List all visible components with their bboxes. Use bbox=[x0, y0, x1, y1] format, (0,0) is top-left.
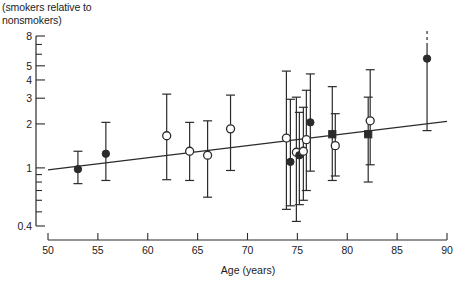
data-point-open-circle bbox=[299, 147, 307, 155]
data-point-filled-circle bbox=[102, 150, 109, 157]
y-tick-label: 2 bbox=[26, 118, 32, 130]
chart-canvas: 0.4123458 505560657075808590 Age (years) bbox=[0, 0, 456, 289]
data-point-filled-circle bbox=[307, 119, 314, 126]
data-point-filled-circle bbox=[74, 165, 81, 172]
x-tick-label: 70 bbox=[242, 244, 254, 256]
data-point-filled-circle bbox=[287, 158, 294, 165]
x-tick-label: 60 bbox=[142, 244, 154, 256]
x-tick-label: 75 bbox=[292, 244, 304, 256]
y-tick-label: 4 bbox=[26, 74, 32, 86]
data-point-open-circle bbox=[331, 142, 339, 150]
y-tick-label: 3 bbox=[26, 92, 32, 104]
x-tick-label: 50 bbox=[42, 244, 54, 256]
x-tick-label: 55 bbox=[92, 244, 104, 256]
y-axis-ticks-group: 0.4123458 bbox=[17, 30, 45, 232]
y-tick-label: 8 bbox=[26, 30, 32, 42]
x-axis-label: Age (years) bbox=[221, 264, 275, 276]
data-point-filled-square bbox=[365, 131, 372, 138]
x-tick-label: 90 bbox=[441, 244, 453, 256]
data-point-open-circle bbox=[366, 117, 374, 125]
data-point-filled-circle bbox=[423, 55, 430, 62]
axes-group bbox=[36, 36, 447, 240]
data-point-open-circle bbox=[302, 136, 310, 144]
error-bars-group bbox=[73, 30, 431, 221]
data-point-open-circle bbox=[282, 134, 290, 142]
x-tick-label: 80 bbox=[341, 244, 353, 256]
x-tick-label: 85 bbox=[391, 244, 403, 256]
y-tick-label: 0.4 bbox=[17, 220, 32, 232]
y-tick-label: 5 bbox=[26, 60, 32, 72]
data-point-open-circle bbox=[163, 132, 171, 140]
data-point-open-circle bbox=[186, 147, 194, 155]
chart-figure: (smokers relative to nonsmokers) 0.41234… bbox=[0, 0, 456, 289]
data-point-open-circle bbox=[227, 125, 235, 133]
x-axis-ticks-group: 505560657075808590 bbox=[42, 233, 453, 256]
data-point-open-circle bbox=[204, 151, 212, 159]
y-tick-label: 1 bbox=[26, 162, 32, 174]
data-markers-group bbox=[74, 55, 431, 173]
regression-line bbox=[48, 121, 447, 169]
regression-line-group bbox=[48, 121, 447, 169]
data-point-filled-square bbox=[329, 131, 336, 138]
x-tick-label: 65 bbox=[192, 244, 204, 256]
